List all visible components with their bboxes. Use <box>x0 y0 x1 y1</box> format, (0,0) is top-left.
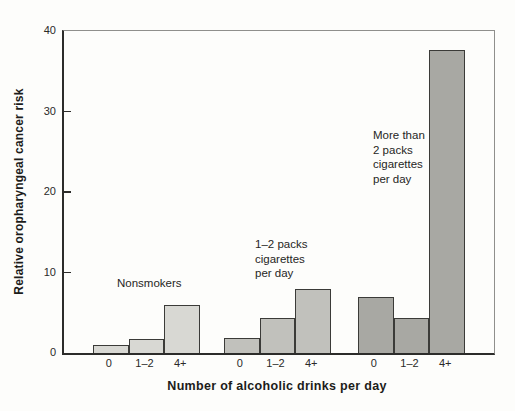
bar-1–2-packs-cigarettes-per-day-1–2 <box>260 318 296 353</box>
bar-more-than-2-packs-cigarettes-per-day-4+ <box>429 50 465 353</box>
bar-1–2-packs-cigarettes-per-day-0 <box>224 338 260 353</box>
bar-more-than-2-packs-cigarettes-per-day-0 <box>358 297 394 353</box>
x-tick-label: 4+ <box>158 357 202 369</box>
bar-nonsmokers-4+ <box>164 305 200 353</box>
x-tick-label: 4+ <box>289 357 333 369</box>
y-tick-mark <box>64 111 71 113</box>
y-axis-title: Relative oropharyngeal cancer risk <box>12 31 27 353</box>
annotation-line: cigarettes <box>373 157 425 172</box>
y-tick-label: 0 <box>26 345 56 359</box>
annotation-line: Nonsmokers <box>117 276 182 291</box>
y-tick-mark <box>64 272 71 274</box>
y-tick-label: 10 <box>26 265 56 279</box>
annotation-line: 1–2 packs <box>255 237 307 252</box>
plot-area <box>62 30 495 355</box>
group-annotation: 1–2 packscigarettesper day <box>255 237 307 281</box>
group-annotation: More than2 packscigarettesper day <box>373 128 425 186</box>
annotation-line: per day <box>255 266 307 281</box>
chart-figure: Relative oropharyngeal cancer risk 01020… <box>0 0 515 411</box>
annotation-line: cigarettes <box>255 252 307 267</box>
y-tick-label: 20 <box>26 184 56 198</box>
annotation-line: 2 packs <box>373 143 425 158</box>
bar-1–2-packs-cigarettes-per-day-4+ <box>295 289 331 353</box>
annotation-line: per day <box>373 172 425 187</box>
bar-more-than-2-packs-cigarettes-per-day-1–2 <box>394 318 430 353</box>
x-axis-title: Number of alcoholic drinks per day <box>62 379 492 393</box>
bar-nonsmokers-1–2 <box>129 339 165 353</box>
x-tick-label: 4+ <box>423 357 467 369</box>
y-tick-mark <box>64 191 71 193</box>
annotation-line: More than <box>373 128 425 143</box>
group-annotation: Nonsmokers <box>117 276 182 291</box>
y-tick-label: 30 <box>26 104 56 118</box>
bar-nonsmokers-0 <box>93 345 129 353</box>
y-tick-label: 40 <box>26 23 56 37</box>
